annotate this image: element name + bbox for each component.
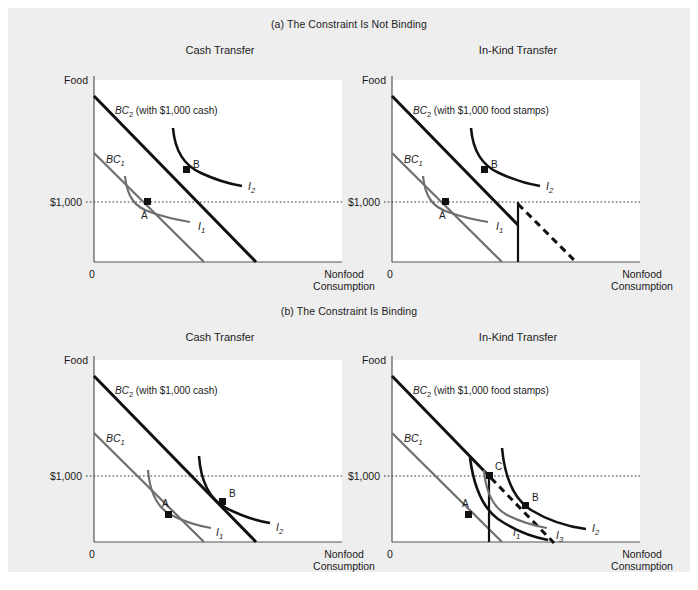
point-c-marker-b-inkind [486,472,493,479]
point-a-marker-b-inkind [465,511,472,518]
y-axis-label-b-inkind: Food [362,354,386,366]
x-axis-label-line1-b-inkind: Nonfood [622,548,662,560]
origin-label-b-inkind: 0 [387,548,393,560]
bc1-label-sub-b-inkind: 1 [419,438,423,447]
point-b-marker-b-inkind [522,502,529,509]
i2-label-sub-b-inkind: 2 [594,528,600,537]
point-a-label-b-inkind: A [462,498,469,509]
bc1-label-text-b-inkind: BC [404,432,419,444]
point-b-label-b-inkind: B [532,492,539,503]
x-axis-label-line2-b-inkind: Consumption [611,560,673,572]
figure-container: (a) The Constraint Is Not Binding Cash T… [8,8,690,572]
panel-b-inkind-chart: Food $1,000 0 Nonfood Consumption BC2 (w… [8,8,690,572]
bc2-label-text-b-inkind: BC [413,385,428,396]
i1-label-sub-b-inkind: 1 [516,532,520,541]
point-c-label-b-inkind: C [495,461,502,472]
y-tick-1000-b-inkind: $1,000 [348,470,380,482]
bc2-note-b-inkind: (with $1,000 food stamps) [431,385,549,396]
